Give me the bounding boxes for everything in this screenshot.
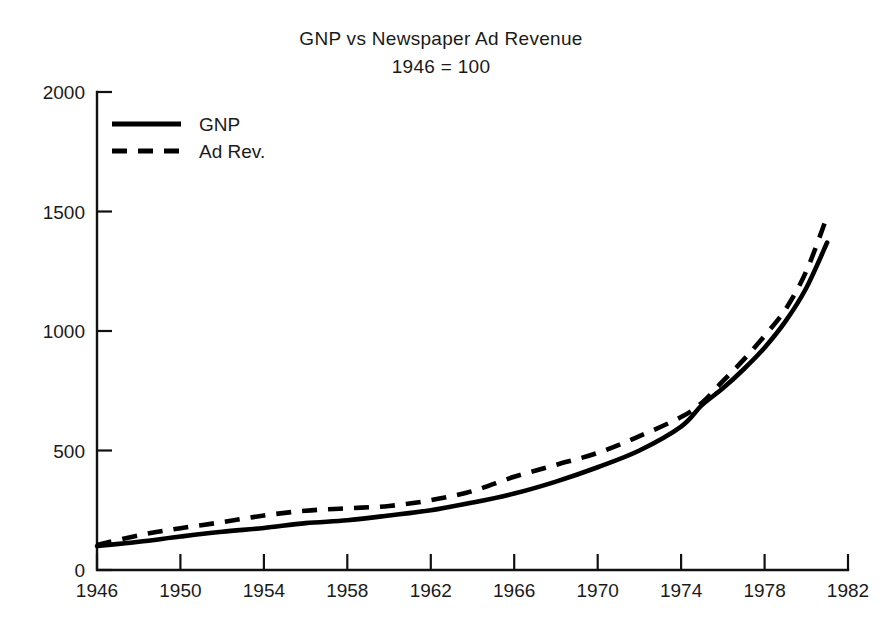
legend-label-gnp: GNP	[199, 114, 240, 135]
y-tick-label-500: 500	[53, 441, 85, 462]
y-tick-label-0: 0	[74, 560, 85, 581]
data-series-group	[97, 216, 827, 546]
x-tick-marks	[97, 554, 848, 570]
y-tick-label-2000: 2000	[43, 82, 85, 103]
x-tick-label-1946: 1946	[76, 580, 118, 601]
chart-legend: GNP Ad Rev.	[112, 114, 265, 162]
x-tick-label-1970: 1970	[577, 580, 619, 601]
y-tick-labels: 2000 1500 1000 500 0	[43, 82, 85, 581]
axis-frame	[97, 92, 848, 570]
legend-label-ad-rev: Ad Rev.	[199, 141, 265, 162]
axes-group	[97, 92, 848, 570]
x-tick-label-1978: 1978	[743, 580, 785, 601]
x-tick-label-1958: 1958	[326, 580, 368, 601]
x-tick-label-1954: 1954	[243, 580, 286, 601]
x-tick-labels: 1946 1950 1954 1958 1962 1966 1970 1974 …	[76, 580, 869, 601]
x-tick-label-1974: 1974	[660, 580, 703, 601]
y-tick-label-1500: 1500	[43, 202, 85, 223]
chart-plot-area: 2000 1500 1000 500 0 1946 1950 1954 1958…	[0, 0, 882, 628]
y-tick-label-1000: 1000	[43, 321, 85, 342]
x-tick-label-1950: 1950	[159, 580, 201, 601]
series-line-ad-rev	[97, 216, 827, 545]
chart-figure: GNP vs Newspaper Ad Revenue 1946 = 100 2…	[0, 0, 882, 628]
x-tick-label-1962: 1962	[410, 580, 452, 601]
x-tick-label-1966: 1966	[493, 580, 535, 601]
x-tick-label-1982: 1982	[827, 580, 869, 601]
series-line-gnp	[97, 243, 827, 547]
